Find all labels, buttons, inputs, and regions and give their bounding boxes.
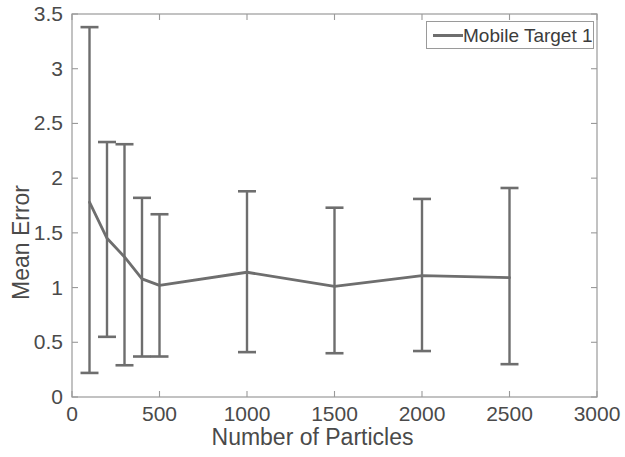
x-tick-label: 3000 — [574, 402, 621, 426]
y-tick-label: 0 — [51, 385, 63, 409]
y-tick-label: 3.5 — [34, 2, 63, 26]
x-tick-label: 0 — [66, 402, 78, 426]
x-tick-label: 2000 — [399, 402, 446, 426]
legend-entry-label: Mobile Target 1 — [463, 26, 593, 45]
x-tick-label: 1000 — [224, 402, 271, 426]
y-tick-label: 2 — [51, 166, 63, 190]
x-tick-label: 2500 — [486, 402, 533, 426]
y-tick-label: 3 — [51, 57, 63, 81]
y-tick-label: 0.5 — [34, 330, 63, 354]
x-tick-label: 1500 — [311, 402, 358, 426]
plot-area — [0, 0, 625, 457]
x-axis-label: Number of Particles — [212, 424, 414, 451]
legend: Mobile Target 1 — [426, 21, 594, 49]
y-tick-label: 1 — [51, 276, 63, 300]
figure-canvas: Mean Error Number of Particles 00.511.52… — [0, 0, 625, 457]
y-axis-label: Mean Error — [8, 185, 35, 300]
x-tick-label: 500 — [142, 402, 177, 426]
legend-line-swatch — [433, 34, 463, 37]
y-tick-label: 2.5 — [34, 111, 63, 135]
y-tick-label: 1.5 — [34, 221, 63, 245]
